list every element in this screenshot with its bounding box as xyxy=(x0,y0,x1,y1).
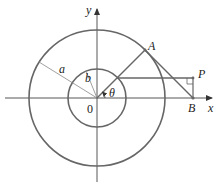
segment-OA xyxy=(97,50,145,98)
radius-b-label: b xyxy=(85,71,91,85)
point-P-dot xyxy=(192,77,195,80)
point-P-label: P xyxy=(197,67,206,81)
y-axis-label: y xyxy=(85,3,92,17)
theta-arc-icon xyxy=(103,92,105,98)
point-A-label: A xyxy=(147,39,156,53)
x-axis-label: x xyxy=(207,101,214,115)
diagram: y x 0 A P B a b θ xyxy=(0,0,219,185)
point-B-label: B xyxy=(188,101,196,115)
point-B-dot xyxy=(191,96,194,99)
tangent-AB xyxy=(145,50,193,98)
origin-label: 0 xyxy=(87,102,93,116)
theta-label: θ xyxy=(109,86,115,100)
radius-a-label: a xyxy=(59,62,65,76)
point-A-dot xyxy=(144,49,147,52)
